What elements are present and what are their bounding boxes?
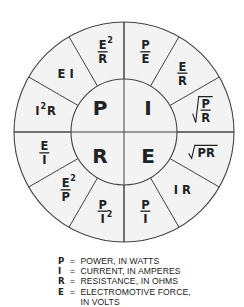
factor: R (47, 104, 56, 118)
formula-p-e: PE (140, 38, 150, 66)
exponent: 2 (41, 102, 47, 111)
legend-symbol: P (58, 256, 67, 266)
legend-text: CURRENT, IN AMPERES (80, 266, 180, 276)
numerator: E (40, 139, 48, 153)
numerator: E (62, 176, 70, 190)
formula-text: I R (174, 183, 191, 197)
numerator: P (141, 198, 149, 212)
formula-ei: E I (58, 67, 74, 81)
legend-row-resistance: R= RESISTANCE, IN OHMS (58, 276, 191, 286)
formula-text: E I (58, 67, 74, 81)
wheel-shapes (14, 22, 234, 242)
legend-symbol: R (58, 276, 67, 286)
formula-ir: I R (174, 183, 191, 197)
formula-e-r: ER (177, 60, 187, 88)
numerator: E (178, 60, 186, 74)
numerator-exponent: 2 (107, 36, 113, 45)
base: I (35, 104, 39, 118)
numerator: P (98, 198, 106, 212)
legend-text: POWER, IN WATTS (80, 256, 159, 266)
legend-equals: = (67, 266, 78, 276)
legend-text: IN VOLTS (80, 297, 119, 307)
quadrant-r: R (92, 144, 107, 168)
denominator: R (178, 74, 187, 88)
denominator: I (143, 212, 147, 226)
numerator-exponent: 2 (70, 174, 76, 183)
legend-equals: = (67, 256, 78, 266)
quadrant-p: P (93, 96, 108, 120)
denominator: R (201, 111, 210, 125)
denominator: P (61, 190, 69, 204)
quadrant-e: E (141, 144, 155, 168)
legend-row-emf: E= ELECTROMOTIVE FORCE, (58, 287, 191, 297)
denominator-exponent: 2 (107, 210, 113, 219)
denominator: I (101, 212, 105, 226)
legend-text: ELECTROMOTIVE FORCE, (80, 287, 190, 297)
legend-symbol: E (58, 287, 67, 297)
denominator: R (98, 52, 107, 66)
radicand: PR (198, 146, 215, 160)
numerator: P (201, 97, 209, 111)
legend-row-emf-cont: IN VOLTS (58, 297, 191, 307)
legend-symbol: I (58, 266, 67, 276)
legend-equals: = (67, 287, 78, 297)
denominator: I (42, 153, 46, 167)
numerator: E (99, 38, 107, 52)
numerator: P (141, 38, 149, 52)
legend-equals: = (67, 276, 78, 286)
denominator: E (141, 52, 149, 66)
legend-text: RESISTANCE, IN OHMS (80, 276, 178, 286)
ohms-law-wheel: PIRE E2RE II2REIE2PPI2PII RPRPRERPE (0, 0, 244, 250)
legend-row-current: I= CURRENT, IN AMPERES (58, 266, 191, 276)
legend-row-power: P= POWER, IN WATTS (58, 256, 191, 266)
quadrant-i: I (144, 96, 151, 120)
legend: P= POWER, IN WATTS I= CURRENT, IN AMPERE… (58, 256, 191, 307)
